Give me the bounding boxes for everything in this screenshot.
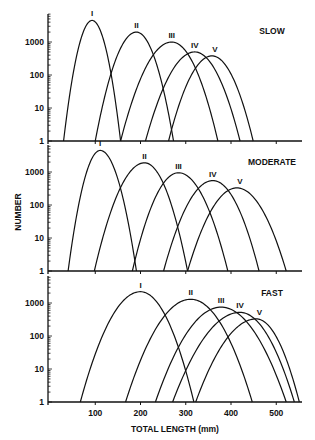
x-tick-label: 500 [269,408,283,418]
y-tick-label: 10 [35,103,45,113]
curve-II [126,299,253,402]
curve-V [169,56,254,141]
y-tick-label: 1 [39,136,44,146]
y-tick-label: 10 [35,364,45,374]
curve-I [64,20,121,141]
curve-III [155,307,286,402]
y-tick-label: 100 [30,331,44,341]
series-label: I [91,9,93,18]
panel-title: FAST [261,288,284,298]
series-label: II [142,152,146,161]
y-tick-label: 100 [30,200,44,210]
panel-slow: 1101001000SLOWIIIIIIIVV [25,9,302,146]
series-label: III [168,31,175,40]
y-tick-label: 10 [35,233,45,243]
panel-title: SLOW [259,26,285,36]
y-tick-label: 1000 [25,37,44,47]
curve-II [94,163,187,271]
curve-II [95,32,173,141]
series-label: III [175,162,182,171]
panel-fast: 1101001000FASTIIIIIIIVV [25,276,302,407]
y-tick-label: 1 [39,397,44,407]
series-label: IV [191,41,199,50]
length-frequency-chart: 1101001000SLOWIIIIIIIVV1101001000MODERAT… [0,0,315,440]
y-tick-label: 1000 [25,167,44,177]
series-label: I [99,139,101,148]
series-label: IV [236,301,244,310]
x-axis-title: TOTAL LENGTH (mm) [131,424,219,434]
series-label: II [134,21,138,30]
y-tick-label: 1 [39,266,44,276]
chart: 1101001000SLOWIIIIIIIVV1101001000MODERAT… [0,0,315,440]
curve-IV [164,181,259,271]
series-label: I [139,281,141,290]
series-label: V [212,45,218,54]
curve-V [188,188,287,271]
curve-I [80,292,194,402]
series-label: IV [209,170,217,179]
y-tick-label: 1000 [25,298,44,308]
series-label: V [237,177,243,186]
x-tick-label: 200 [133,408,147,418]
x-tick-label: 300 [179,408,193,418]
curve-V [196,319,300,402]
y-tick-label: 100 [30,70,44,80]
series-label: II [189,288,193,297]
panel-title: MODERATE [248,157,296,167]
x-tick-label: 100 [88,408,102,418]
series-label: V [257,308,263,317]
x-tick-label: 400 [224,408,238,418]
panel-moderate: 1101001000MODERATEIIIIIIIVV [25,139,302,276]
curve-III [121,42,218,141]
curve-I [68,150,136,271]
series-label: III [218,296,225,305]
y-axis-title: NUMBER [13,193,23,230]
